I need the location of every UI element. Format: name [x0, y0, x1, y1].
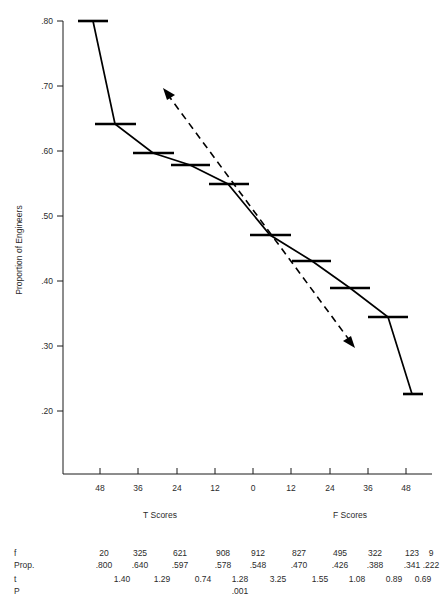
- stats-table: f 20 325 621 908 912 827 495 322 123 9 P…: [14, 548, 440, 596]
- x-tick-label: 24: [325, 483, 335, 493]
- trend-line: [168, 95, 350, 341]
- stats-cell: 325: [133, 548, 147, 558]
- stats-cell: 827: [292, 548, 306, 558]
- stats-cell: .388: [367, 560, 384, 570]
- stats-cell: .548: [250, 560, 267, 570]
- stats-cell: .222: [423, 560, 440, 570]
- x-tick-label: 24: [172, 483, 182, 493]
- stats-cell: .578: [215, 560, 232, 570]
- x-tick-label: 12: [210, 483, 220, 493]
- chart-figure: Proportion of Engineers .80 .70 .60 .50 …: [0, 0, 442, 605]
- stats-row-label: f: [14, 548, 17, 558]
- trend-arrow-down-icon: [343, 336, 355, 348]
- stats-cell: 3.25: [270, 574, 287, 584]
- trend-arrow-up-icon: [163, 88, 175, 100]
- stats-cell: .597: [172, 560, 189, 570]
- stats-cell: .341: [404, 560, 421, 570]
- stats-cell: 1.28: [232, 574, 249, 584]
- stats-cell: 495: [333, 548, 347, 558]
- data-point-markers: [78, 21, 423, 394]
- x-tick-label: 36: [133, 483, 143, 493]
- stats-cell: 1.29: [154, 574, 171, 584]
- stats-row-label: P: [14, 586, 20, 596]
- x-section-label-t-scores: T Scores: [143, 510, 177, 520]
- x-axis-ticks: 48 36 24 12 0 12 24 36 48: [95, 468, 411, 493]
- stats-cell: .800: [96, 560, 113, 570]
- y-tick-label: .80: [41, 16, 53, 26]
- stats-row-t-statistic: t 1.40 1.29 0.74 1.28 3.25 1.55 1.08 0.8…: [14, 574, 432, 584]
- stats-cell: 1.55: [312, 574, 329, 584]
- x-tick-label: 12: [286, 483, 296, 493]
- x-tick-label: 48: [95, 483, 105, 493]
- stats-cell: 0.74: [195, 574, 212, 584]
- stats-row-p-value: P .001: [14, 586, 249, 596]
- y-axis-ticks: .80 .70 .60 .50 .40 .30 .20: [41, 16, 63, 416]
- y-tick-label: .20: [41, 406, 53, 416]
- stats-cell: 0.89: [386, 574, 403, 584]
- stats-cell: 621: [173, 548, 187, 558]
- stats-cell: 9: [429, 548, 434, 558]
- stats-cell: .426: [332, 560, 349, 570]
- stats-row-frequency: f 20 325 621 908 912 827 495 322 123 9: [14, 548, 434, 558]
- y-axis-title: Proportion of Engineers: [14, 205, 24, 294]
- x-tick-label: 0: [251, 483, 256, 493]
- y-tick-label: .50: [41, 211, 53, 221]
- y-tick-label: .60: [41, 146, 53, 156]
- x-section-label-f-scores: F Scores: [333, 510, 367, 520]
- stats-row-label: Prop.: [14, 560, 34, 570]
- stats-cell: 0.69: [415, 574, 432, 584]
- stats-cell: .001: [232, 586, 249, 596]
- stats-cell: .640: [132, 560, 149, 570]
- y-tick-label: .40: [41, 276, 53, 286]
- x-tick-label: 48: [401, 483, 411, 493]
- stats-cell: .470: [291, 560, 308, 570]
- data-series-line: [93, 21, 412, 394]
- stats-cell: 322: [368, 548, 382, 558]
- x-tick-label: 36: [363, 483, 373, 493]
- stats-cell: 123: [405, 548, 419, 558]
- y-tick-label: .30: [41, 341, 53, 351]
- stats-cell: 1.40: [114, 574, 131, 584]
- stats-cell: 908: [216, 548, 230, 558]
- stats-cell: 20: [99, 548, 109, 558]
- stats-row-proportion: Prop. .800 .640 .597 .578 .548 .470 .426…: [14, 560, 440, 570]
- y-tick-label: .70: [41, 81, 53, 91]
- stats-row-label: t: [14, 574, 17, 584]
- stats-cell: 1.08: [349, 574, 366, 584]
- stats-cell: 912: [251, 548, 265, 558]
